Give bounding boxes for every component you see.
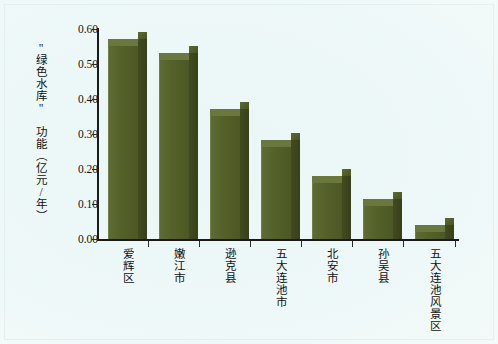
bar-front-face <box>210 116 241 239</box>
bar-top-side <box>240 102 249 109</box>
bar-1[interactable] <box>159 46 198 239</box>
bar-side-face <box>189 53 198 239</box>
y-tick-mark <box>92 134 98 135</box>
x-tick-mark <box>148 241 149 247</box>
y-tick-mark <box>92 64 98 65</box>
bar-top-side <box>138 32 147 39</box>
y-tick-row: 0.00 <box>40 234 98 246</box>
x-tick-mark <box>403 241 404 247</box>
x-tick-mark <box>455 241 456 247</box>
x-axis-label-6: 五大连池风景区 <box>421 248 441 332</box>
bar-top-face <box>108 39 138 46</box>
bar-0[interactable] <box>108 32 147 239</box>
bar-4[interactable] <box>312 169 351 239</box>
bar-top-face <box>415 225 445 232</box>
y-tick-row: 0.30 <box>40 129 98 141</box>
y-tick-mark <box>92 204 98 205</box>
y-tick-mark <box>92 239 98 240</box>
chart-figure: "绿色水库" 功能（亿元/年） 0.60 0.50 0.40 0.30 0.20… <box>0 0 498 344</box>
x-axis-label-1: 嫩江市 <box>165 248 185 284</box>
x-axis-label-5: 孙吴县 <box>369 248 389 284</box>
bar-side-face <box>138 39 147 239</box>
bar-5[interactable] <box>363 192 402 239</box>
bar-top-side <box>393 192 402 199</box>
bar-top-face <box>159 53 189 60</box>
bar-top-side <box>189 46 198 53</box>
bar-top-face <box>312 176 342 183</box>
bar-top-face <box>261 140 291 147</box>
bar-front-face <box>363 206 394 239</box>
x-axis-label-3: 五大连池市 <box>267 248 287 308</box>
x-axis-label-4: 北安市 <box>318 248 338 284</box>
x-tick-mark <box>250 241 251 247</box>
bar-6[interactable] <box>415 218 454 239</box>
x-axis-line <box>97 239 459 241</box>
x-axis-label-0: 爱辉区 <box>114 248 134 284</box>
bar-top-side <box>445 218 454 225</box>
x-tick-mark <box>199 241 200 247</box>
bar-front-face <box>261 147 292 239</box>
bar-front-face <box>159 60 190 239</box>
y-tick-mark <box>92 29 98 30</box>
bar-top-side <box>342 169 351 176</box>
bar-front-face <box>415 232 446 239</box>
bar-2[interactable] <box>210 102 249 239</box>
plot-area: "绿色水库" 功能（亿元/年） 0.60 0.50 0.40 0.30 0.20… <box>0 0 498 344</box>
bar-side-face <box>445 225 454 239</box>
y-tick-mark <box>92 169 98 170</box>
bar-front-face <box>312 183 343 239</box>
bar-side-face <box>342 176 351 239</box>
y-tick-row: 0.40 <box>40 94 98 106</box>
bar-top-side <box>291 133 300 140</box>
bar-side-face <box>291 140 300 239</box>
bar-side-face <box>240 109 249 239</box>
bar-top-face <box>363 199 393 206</box>
bar-front-face <box>108 46 139 239</box>
bar-top-face <box>210 109 240 116</box>
bar-side-face <box>393 199 402 239</box>
x-tick-mark <box>301 241 302 247</box>
x-axis-label-2: 逊克县 <box>216 248 236 284</box>
bar-3[interactable] <box>261 133 300 239</box>
y-tick-row: 0.20 <box>40 164 98 176</box>
y-tick-row: 0.10 <box>40 199 98 211</box>
y-tick-row: 0.50 <box>40 59 98 71</box>
x-tick-mark <box>352 241 353 247</box>
y-tick-row: 0.60 <box>40 24 98 36</box>
y-tick-mark <box>92 99 98 100</box>
